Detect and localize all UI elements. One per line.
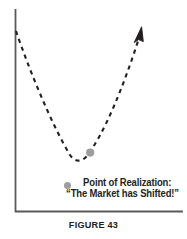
arrowhead-icon: [134, 27, 143, 43]
figure-caption: FIGURE 43: [5, 219, 183, 230]
grey-dot-icon: [64, 182, 71, 189]
point-of-realization-marker: [86, 149, 94, 157]
market-shift-chart: [0, 0, 187, 239]
trajectory-curve: [16, 31, 139, 161]
figure-43: Point of Realization: “The Market has Sh…: [0, 0, 187, 239]
axis-frame: [16, 10, 183, 212]
